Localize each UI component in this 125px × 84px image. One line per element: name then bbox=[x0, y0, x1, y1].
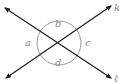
line-k-label: k bbox=[114, 2, 120, 13]
diagram-canvas: k ℓ a b c d bbox=[0, 0, 125, 84]
angle-a-label: a bbox=[25, 37, 31, 48]
line-l-label: ℓ bbox=[114, 73, 118, 84]
angle-b-label: b bbox=[55, 18, 61, 29]
angle-d-label: d bbox=[55, 57, 61, 68]
angle-c-label: c bbox=[85, 37, 91, 48]
